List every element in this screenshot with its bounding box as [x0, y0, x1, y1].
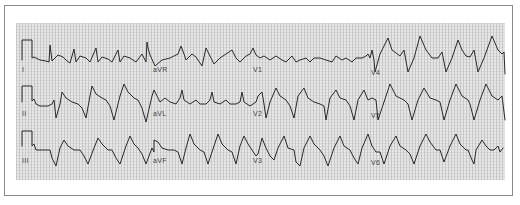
- lead-label-v2: V2: [253, 110, 262, 117]
- lead-label-v5: V5: [371, 112, 380, 119]
- lead-label-i: I: [22, 66, 24, 73]
- ecg-traces: [0, 0, 520, 205]
- lead-label-v3: V3: [253, 157, 262, 164]
- lead-label-avr: aVR: [153, 66, 168, 73]
- lead-label-avf: aVF: [153, 157, 167, 164]
- lead-label-v6: V6: [371, 159, 380, 166]
- lead-label-ii: II: [22, 110, 27, 117]
- lead-label-iii: III: [22, 157, 29, 164]
- trace-row-1: [22, 36, 505, 74]
- trace-row-3: [22, 131, 503, 166]
- lead-label-v1: V1: [253, 66, 262, 73]
- trace-row-2: [22, 84, 505, 122]
- lead-label-avl: aVL: [153, 110, 166, 117]
- lead-label-v4: V4: [371, 69, 380, 76]
